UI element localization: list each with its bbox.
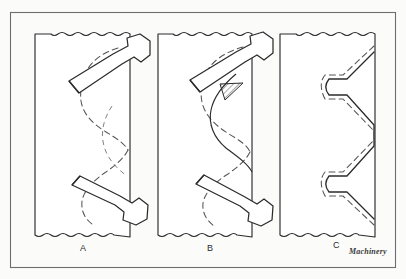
gear-generation-figure [0, 0, 406, 279]
panel-label-c: C [333, 240, 340, 250]
publication-credit: Machinery [349, 247, 387, 256]
panel-b [158, 32, 273, 237]
panel-label-b: B [207, 243, 214, 253]
panel-a [35, 33, 150, 238]
panel-c [280, 33, 375, 238]
figure-page: A B C Machinery [0, 0, 406, 279]
panel-label-a: A [80, 243, 87, 253]
